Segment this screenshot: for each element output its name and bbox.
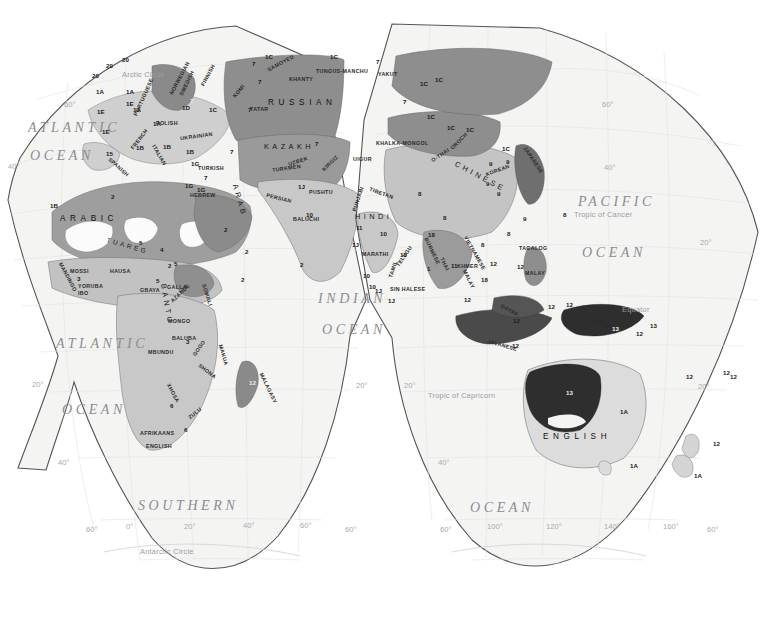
map-canvas: [0, 0, 769, 630]
land-china: [384, 143, 518, 239]
world-map: ATLANTICOCEANATLANTICOCEANINDIANOCEANPAC…: [0, 0, 769, 630]
